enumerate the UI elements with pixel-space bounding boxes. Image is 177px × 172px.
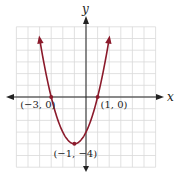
x-axis-label: x [167, 90, 174, 104]
y-axis-up-arrow-icon [83, 16, 89, 24]
x-axis-left-arrow-icon [6, 94, 14, 100]
point-label: (−3, 0) [20, 99, 55, 110]
curve-left-arrow-icon [37, 36, 43, 44]
curve-right-arrow-icon [105, 36, 111, 44]
x-axis-right-arrow-icon [156, 94, 164, 100]
labeled-points: (−3, 0)(1, 0)(−1, −4) [20, 95, 127, 159]
point-label: (1, 0) [101, 99, 128, 110]
axes: x y [6, 2, 174, 172]
point-marker [72, 142, 76, 146]
point-label: (−1, −4) [53, 148, 97, 159]
parabola-graph: x y (−3, 0)(1, 0)(−1, −4) [0, 0, 177, 172]
y-axis-down-arrow-icon [83, 166, 89, 172]
point-marker [96, 95, 100, 99]
y-axis-label: y [81, 2, 89, 16]
